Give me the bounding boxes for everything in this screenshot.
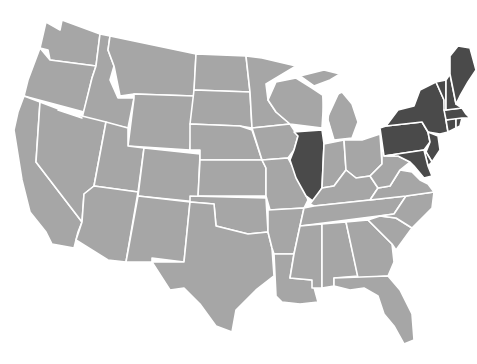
state-rhode-island[interactable]	[456, 118, 462, 128]
state-south-dakota[interactable]	[190, 90, 252, 128]
state-new-mexico[interactable]	[126, 196, 190, 262]
state-montana[interactable]	[108, 36, 196, 96]
us-states-map	[0, 0, 477, 364]
state-maine[interactable]	[450, 46, 476, 104]
state-colorado[interactable]	[138, 148, 200, 202]
state-florida[interactable]	[334, 276, 414, 344]
state-kansas[interactable]	[198, 160, 266, 196]
state-wyoming[interactable]	[128, 94, 194, 150]
state-north-dakota[interactable]	[194, 54, 250, 92]
state-nebraska[interactable]	[190, 124, 262, 160]
